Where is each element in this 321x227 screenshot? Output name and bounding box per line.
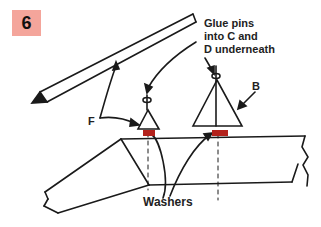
washers-label: Washers — [143, 196, 193, 209]
label-b: B — [252, 80, 260, 93]
glue-line-1: Glue pins — [204, 17, 314, 30]
label-f: F — [88, 115, 95, 128]
washer-small — [143, 130, 155, 136]
strip-f — [32, 14, 196, 103]
small-triangle — [138, 95, 159, 190]
glue-line-2: into C and — [204, 30, 314, 43]
glue-line-3: D underneath — [204, 43, 314, 56]
washer-large — [212, 130, 228, 136]
glue-pins-label: Glue pins into C and D underneath — [204, 17, 314, 56]
